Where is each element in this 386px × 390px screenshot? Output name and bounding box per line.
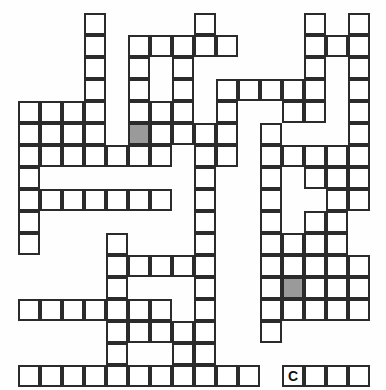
crossword-cell[interactable]	[194, 189, 216, 211]
crossword-cell[interactable]: C	[282, 365, 304, 387]
crossword-cell[interactable]	[40, 101, 62, 123]
crossword-cell[interactable]	[106, 365, 128, 387]
crossword-cell[interactable]	[282, 101, 304, 123]
crossword-cell[interactable]	[282, 299, 304, 321]
crossword-cell[interactable]	[194, 13, 216, 35]
crossword-cell[interactable]	[194, 35, 216, 57]
crossword-cell[interactable]	[304, 277, 326, 299]
crossword-cell[interactable]	[304, 101, 326, 123]
crossword-cell[interactable]	[128, 321, 150, 343]
crossword-cell[interactable]	[172, 79, 194, 101]
crossword-cell[interactable]	[348, 189, 370, 211]
crossword-cell[interactable]	[84, 13, 106, 35]
crossword-cell[interactable]	[326, 211, 348, 233]
crossword-cell[interactable]	[194, 321, 216, 343]
crossword-cell[interactable]	[40, 145, 62, 167]
crossword-cell[interactable]	[348, 277, 370, 299]
crossword-cell[interactable]	[194, 145, 216, 167]
crossword-cell[interactable]	[62, 145, 84, 167]
crossword-cell[interactable]	[260, 123, 282, 145]
crossword-cell[interactable]	[172, 321, 194, 343]
crossword-cell[interactable]	[62, 365, 84, 387]
crossword-cell[interactable]	[18, 211, 40, 233]
crossword-cell[interactable]	[84, 35, 106, 57]
crossword-cell[interactable]	[326, 35, 348, 57]
crossword-cell[interactable]	[348, 13, 370, 35]
crossword-cell[interactable]	[18, 145, 40, 167]
crossword-cell[interactable]	[128, 255, 150, 277]
crossword-cell[interactable]	[106, 145, 128, 167]
crossword-cell[interactable]	[150, 101, 172, 123]
crossword-cell[interactable]	[326, 277, 348, 299]
crossword-cell[interactable]	[216, 365, 238, 387]
crossword-cell[interactable]	[62, 299, 84, 321]
crossword-cell[interactable]	[150, 299, 172, 321]
crossword-cell[interactable]	[150, 35, 172, 57]
crossword-cell[interactable]	[194, 211, 216, 233]
crossword-cell[interactable]	[194, 233, 216, 255]
crossword-cell[interactable]	[194, 255, 216, 277]
crossword-cell[interactable]	[172, 101, 194, 123]
crossword-cell[interactable]	[150, 321, 172, 343]
crossword-cell[interactable]	[304, 13, 326, 35]
crossword-cell[interactable]	[18, 299, 40, 321]
crossword-cell[interactable]	[304, 299, 326, 321]
crossword-cell[interactable]	[18, 365, 40, 387]
crossword-cell[interactable]	[304, 35, 326, 57]
crossword-cell[interactable]	[260, 277, 282, 299]
crossword-cell[interactable]	[18, 189, 40, 211]
crossword-cell[interactable]	[40, 365, 62, 387]
crossword-cell[interactable]	[260, 145, 282, 167]
crossword-cell[interactable]	[128, 79, 150, 101]
crossword-cell[interactable]	[282, 233, 304, 255]
crossword-cell[interactable]	[128, 145, 150, 167]
crossword-cell[interactable]	[18, 233, 40, 255]
crossword-cell[interactable]	[260, 255, 282, 277]
crossword-cell[interactable]	[238, 79, 260, 101]
crossword-cell[interactable]	[326, 145, 348, 167]
crossword-cell[interactable]	[216, 35, 238, 57]
crossword-cell[interactable]	[304, 365, 326, 387]
crossword-cell[interactable]	[106, 277, 128, 299]
crossword-cell[interactable]	[348, 123, 370, 145]
crossword-cell[interactable]	[348, 101, 370, 123]
crossword-cell[interactable]	[172, 35, 194, 57]
crossword-cell[interactable]	[62, 189, 84, 211]
crossword-cell[interactable]	[194, 299, 216, 321]
crossword-cell[interactable]	[40, 123, 62, 145]
crossword-cell[interactable]	[128, 299, 150, 321]
crossword-cell[interactable]	[84, 57, 106, 79]
crossword-cell[interactable]	[150, 145, 172, 167]
crossword-cell[interactable]	[348, 35, 370, 57]
crossword-cell[interactable]	[194, 365, 216, 387]
crossword-cell[interactable]	[84, 79, 106, 101]
crossword-cell[interactable]	[40, 299, 62, 321]
crossword-cell[interactable]	[84, 299, 106, 321]
crossword-cell[interactable]	[18, 167, 40, 189]
crossword-cell[interactable]	[18, 101, 40, 123]
crossword-cell[interactable]	[84, 365, 106, 387]
crossword-grid[interactable]: C	[0, 0, 386, 390]
crossword-cell[interactable]	[348, 167, 370, 189]
crossword-cell[interactable]	[172, 343, 194, 365]
crossword-cell[interactable]	[128, 57, 150, 79]
crossword-cell[interactable]	[172, 255, 194, 277]
crossword-cell[interactable]	[216, 145, 238, 167]
crossword-cell[interactable]	[260, 299, 282, 321]
crossword-cell[interactable]	[40, 189, 62, 211]
crossword-cell[interactable]	[326, 233, 348, 255]
crossword-cell[interactable]	[216, 79, 238, 101]
crossword-cell[interactable]	[304, 145, 326, 167]
crossword-cell[interactable]	[106, 299, 128, 321]
crossword-cell[interactable]	[150, 123, 172, 145]
crossword-cell[interactable]	[304, 57, 326, 79]
crossword-cell[interactable]	[260, 79, 282, 101]
crossword-cell[interactable]	[216, 123, 238, 145]
crossword-cell[interactable]	[84, 123, 106, 145]
crossword-cell[interactable]	[150, 189, 172, 211]
crossword-cell[interactable]	[326, 255, 348, 277]
crossword-cell[interactable]	[172, 123, 194, 145]
crossword-cell[interactable]	[348, 57, 370, 79]
crossword-cell[interactable]	[260, 211, 282, 233]
crossword-cell[interactable]	[106, 189, 128, 211]
